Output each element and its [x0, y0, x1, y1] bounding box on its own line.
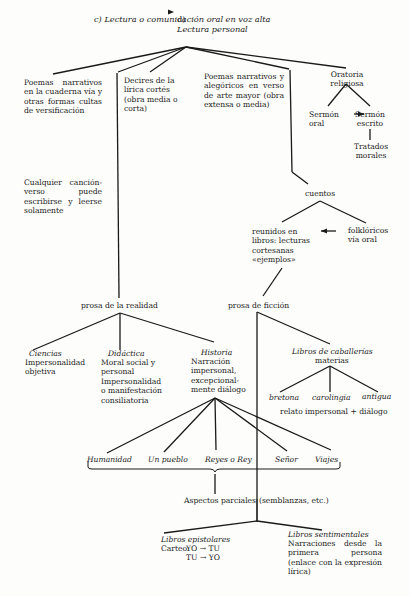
header-right-label: Lectura personal [177, 24, 248, 34]
node-historia-title: Historia [201, 348, 232, 357]
node-materias: materias [315, 356, 349, 365]
node-oratoria: Oratoria religiosa [324, 70, 370, 89]
node-aspectos-parciales: Aspectos parciales [184, 496, 256, 505]
node-poemas-arte-mayor: Poemas narrativos y alegóricos en verso … [204, 72, 284, 110]
node-caballerias-title: Libros de caballerías [292, 347, 373, 356]
materia-bretona: bretona [269, 393, 299, 402]
subject-viajes: Viajes [315, 455, 338, 464]
subject-humanidad: Humanidad [87, 455, 132, 464]
node-sentimentales-title: Libros sentimentales [288, 530, 369, 539]
subject-un-pueblo: Un pueblo [148, 455, 188, 464]
node-ciencias-desc: Impersonalidad objetiva [25, 358, 87, 377]
node-didactica-title: Didáctica [108, 349, 144, 358]
node-sermon-oral: Sermón oral [309, 110, 339, 129]
materia-antigua: antigua [362, 392, 391, 401]
node-cualquier-cancion: Cualquier canción-verso puede escribirse… [24, 178, 102, 216]
node-tratados-morales: Tratados morales [351, 142, 391, 161]
node-didactica-desc: Moral social y personal Impersonalidad o… [101, 358, 163, 405]
node-folkloricos: folklóricos vía oral [348, 226, 398, 245]
subject-senor: Señor [275, 455, 298, 464]
node-relato-impersonal: relato impersonal + diálogo [280, 407, 388, 416]
node-carteo-1: YO → TU [186, 544, 220, 553]
node-sentimentales-desc: Narraciones desde la primera persona (en… [288, 539, 382, 577]
subject-reyes: Reyes o Rey [205, 455, 252, 464]
node-prosa-ficcion: prosa de ficción [228, 301, 289, 310]
node-prosa-realidad: prosa de la realidad [81, 301, 158, 310]
node-historia-desc: Narración impersonal, excepcional-mente … [191, 357, 247, 395]
node-semblanzas: (semblanzas, etc.) [259, 496, 329, 505]
node-carteo-2: TU → YO [186, 553, 220, 562]
node-epistolares-title: Libros epistolares [161, 535, 230, 544]
materia-carolingia: carolingia [312, 393, 351, 402]
header-right: d) Lectura personal [177, 6, 248, 34]
node-poemas-cuaderna: Poemas narrativos en la cuaderna vía y o… [24, 78, 102, 116]
node-ciencias-title: Ciencias [29, 349, 62, 358]
node-cuentos: cuentos [305, 189, 335, 198]
node-decires: Decires de la lírica cortés (obra media … [124, 76, 178, 114]
node-reunidos: reunidos en libros: lecturas cortesanas … [252, 227, 316, 265]
node-sermon-escrito: Sermón escrito [352, 110, 388, 129]
